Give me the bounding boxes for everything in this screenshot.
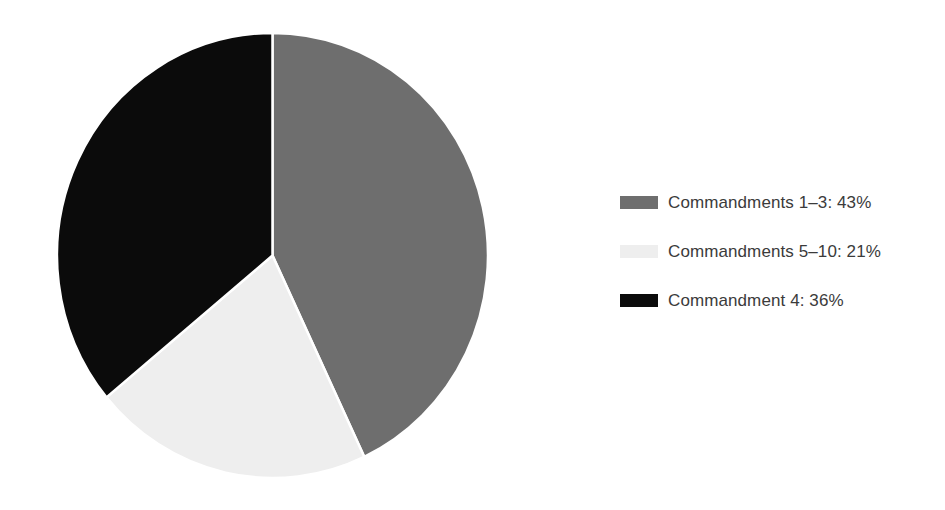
legend-item-commandments-1-3[interactable]: Commandments 1–3: 43% bbox=[620, 178, 930, 227]
legend-swatch-commandments-1-3 bbox=[620, 196, 658, 209]
legend-label-commandment-4: Commandment 4: 36% bbox=[668, 292, 844, 309]
legend-swatch-commandments-5-10 bbox=[620, 245, 658, 258]
pie-slice-group bbox=[57, 33, 488, 478]
legend-label-commandments-1-3: Commandments 1–3: 43% bbox=[668, 194, 871, 211]
legend-item-commandment-4[interactable]: Commandment 4: 36% bbox=[620, 276, 930, 325]
chart-legend: Commandments 1–3: 43% Commandments 5–10:… bbox=[620, 178, 930, 325]
pie-chart-figure: Commandments 1–3: 43% Commandments 5–10:… bbox=[0, 0, 945, 510]
pie-chart-svg bbox=[57, 33, 488, 478]
pie-chart-area bbox=[57, 33, 488, 478]
legend-item-commandments-5-10[interactable]: Commandments 5–10: 21% bbox=[620, 227, 930, 276]
legend-label-commandments-5-10: Commandments 5–10: 21% bbox=[668, 243, 881, 260]
legend-swatch-commandment-4 bbox=[620, 294, 658, 307]
